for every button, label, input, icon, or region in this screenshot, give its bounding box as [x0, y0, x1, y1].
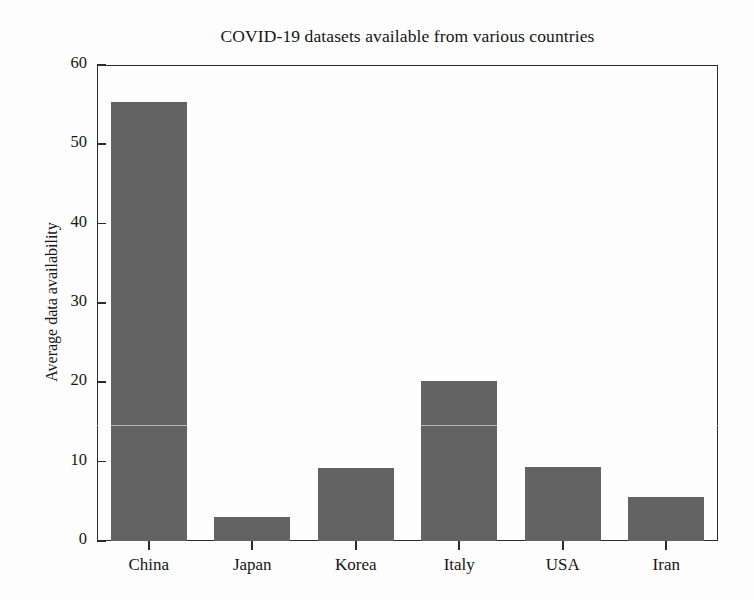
x-tick-mark — [665, 541, 667, 550]
x-tick-label: Iran — [606, 555, 726, 575]
x-tick-mark — [458, 541, 460, 550]
x-tick-label: Korea — [296, 555, 416, 575]
bar-italy — [421, 381, 497, 541]
y-tick-mark — [97, 540, 106, 542]
y-tick-label: 50 — [39, 132, 87, 152]
y-tick-mark — [97, 381, 106, 383]
x-tick-mark — [355, 541, 357, 550]
y-tick-mark — [97, 461, 106, 463]
y-tick-mark — [97, 64, 106, 66]
y-tick-mark — [97, 223, 106, 225]
x-tick-mark — [148, 541, 150, 550]
y-tick-label: 40 — [39, 212, 87, 232]
y-tick-label: 10 — [39, 450, 87, 470]
chart-title: COVID-19 datasets available from various… — [97, 26, 718, 47]
y-tick-label: 60 — [39, 53, 87, 73]
bar-iran — [628, 497, 704, 541]
y-tick-label: 20 — [39, 370, 87, 390]
x-tick-label: USA — [503, 555, 623, 575]
y-tick-mark — [97, 143, 106, 145]
bar-korea — [318, 468, 394, 541]
x-tick-mark — [251, 541, 253, 550]
bar-chart-figure: COVID-19 datasets available from various… — [0, 0, 754, 600]
x-tick-label: Italy — [399, 555, 519, 575]
x-tick-label: China — [89, 555, 209, 575]
y-tick-mark — [97, 302, 106, 304]
y-tick-label: 30 — [39, 291, 87, 311]
bar-china — [111, 102, 187, 541]
x-tick-label: Japan — [192, 555, 312, 575]
y-tick-label: 0 — [39, 529, 87, 549]
bar-japan — [214, 517, 290, 541]
bar-usa — [525, 467, 601, 541]
plot-area — [97, 65, 718, 541]
x-tick-mark — [562, 541, 564, 550]
